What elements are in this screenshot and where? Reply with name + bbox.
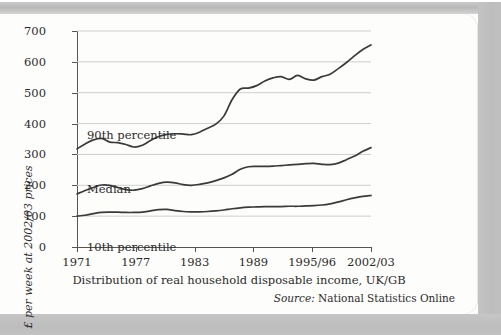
series-label-90th-percentile: 90th percentile	[87, 128, 176, 142]
x-tick-label: 1977	[121, 255, 150, 269]
y-tick-label: 300	[24, 147, 46, 161]
x-tick-label: 1995/96	[288, 255, 336, 269]
x-tick-mark	[253, 247, 254, 252]
x-tick-label: 2002/03	[347, 255, 395, 269]
y-tick-mark	[72, 124, 77, 125]
y-tick-mark	[72, 154, 77, 155]
x-tick-label: 1983	[180, 255, 209, 269]
x-tick-label: 1989	[239, 255, 268, 269]
y-tick-label: 600	[24, 55, 46, 69]
y-tick-mark	[72, 93, 77, 94]
page-shadow-right	[478, 2, 501, 335]
x-tick-mark	[195, 247, 196, 252]
y-tick-mark	[72, 31, 77, 32]
series-label-10th-percentile: 10th percentile	[87, 240, 176, 254]
x-axis-label: Distribution of real household disposabl…	[0, 273, 478, 287]
source-prefix: Source:	[274, 292, 315, 304]
y-tick-label: 700	[24, 24, 46, 38]
x-tick-mark	[371, 247, 372, 252]
source-note: Source: National Statistics Online	[0, 292, 455, 304]
screenshot-root: £ per week at 2002/03 prices 70060050040…	[0, 0, 501, 335]
y-tick-label: 500	[24, 86, 46, 100]
y-tick-mark	[72, 216, 77, 217]
y-tick-label: 200	[24, 178, 46, 192]
y-tick-label: 0	[39, 240, 46, 254]
y-tick-mark	[72, 62, 77, 63]
x-tick-mark	[312, 247, 313, 252]
y-tick-label: 400	[24, 117, 46, 131]
y-tick-label: 100	[24, 209, 46, 223]
page-shadow-top	[0, 2, 501, 14]
source-text: National Statistics Online	[318, 292, 455, 304]
x-tick-label: 1971	[62, 255, 91, 269]
y-tick-mark	[72, 185, 77, 186]
series-label-median: Median	[87, 182, 131, 196]
page-shadow-bottom	[0, 314, 501, 335]
x-tick-mark	[77, 247, 78, 252]
figure-card: £ per week at 2002/03 prices 70060050040…	[0, 14, 478, 314]
line-10th-percentile	[77, 195, 371, 216]
